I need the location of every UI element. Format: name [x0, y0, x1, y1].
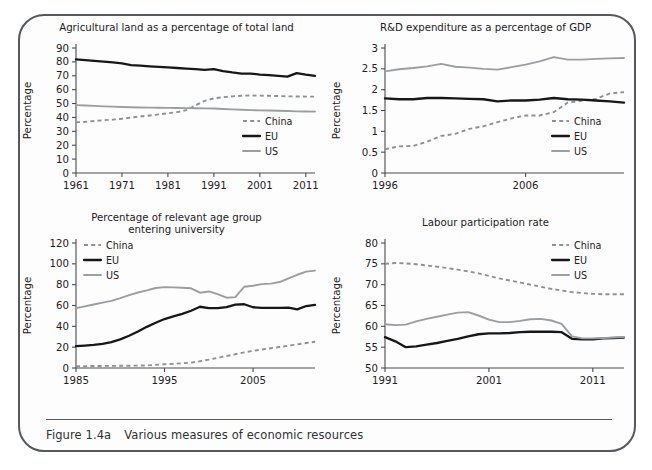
series-line-eu [385, 98, 624, 103]
y-tick-label: 50 [56, 98, 69, 109]
y-axis-label: Percentage [331, 277, 342, 334]
y-axis-label: Percentage [331, 82, 342, 139]
x-tick-label: 1996 [372, 180, 398, 191]
chart-title: Percentage of relevant age group [91, 212, 262, 223]
y-tick-label: 55 [365, 342, 378, 353]
y-tick-label: 100 [50, 258, 69, 269]
y-tick-label: 10 [56, 154, 69, 165]
y-tick-label: 75 [365, 258, 378, 269]
x-tick-label: 2001 [247, 180, 273, 191]
x-tick-label: 2011 [293, 180, 319, 191]
chart-university-entry: Percentage of relevant age groupentering… [18, 209, 327, 404]
y-tick-label: 40 [56, 112, 69, 123]
x-tick-label: 2001 [476, 375, 502, 386]
y-tick-label: 70 [365, 279, 378, 290]
chart-svg-labour-participation: Labour participation rate505560657075801… [327, 209, 636, 404]
y-tick-label: 65 [365, 300, 378, 311]
caption-divider [46, 419, 612, 420]
legend-label-eu: EU [106, 255, 119, 266]
chart-svg-university-entry: Percentage of relevant age groupentering… [18, 209, 327, 404]
x-tick-label: 1981 [155, 180, 181, 191]
legend-label-us: US [574, 146, 587, 157]
chart-title: R&D expenditure as a percentage of GDP [380, 22, 591, 33]
y-tick-label: 3 [372, 43, 378, 54]
y-tick-label: 80 [56, 279, 69, 290]
legend-label-china: China [574, 116, 601, 127]
y-tick-label: 50 [365, 363, 378, 374]
series-line-china [385, 263, 624, 294]
x-tick-label: 2011 [580, 375, 606, 386]
y-tick-label: 80 [365, 238, 378, 249]
series-line-us [385, 312, 624, 338]
y-tick-label: 70 [56, 70, 69, 81]
charts-grid: Agricultural land as a percentage of tot… [18, 14, 636, 404]
y-tick-label: 120 [50, 238, 69, 249]
x-tick-label: 1991 [372, 375, 398, 386]
y-tick-label: 0 [63, 363, 69, 374]
chart-agricultural-land: Agricultural land as a percentage of tot… [18, 14, 327, 209]
y-tick-label: 90 [56, 43, 69, 54]
x-tick-label: 1995 [152, 375, 178, 386]
legend-label-us: US [106, 270, 119, 281]
x-tick-label: 1971 [109, 180, 135, 191]
y-tick-label: 0.5 [362, 147, 378, 158]
x-tick-label: 1961 [63, 180, 89, 191]
y-tick-label: 60 [365, 321, 378, 332]
chart-title: Agricultural land as a percentage of tot… [59, 22, 294, 33]
figure-caption: Figure 1.4aVarious measures of economic … [46, 428, 612, 442]
y-tick-label: 80 [56, 56, 69, 67]
y-tick-label: 60 [56, 84, 69, 95]
chart-rnd-expenditure: R&D expenditure as a percentage of GDP00… [327, 14, 636, 209]
x-tick-label: 2006 [513, 180, 539, 191]
series-line-eu [76, 59, 315, 76]
series-line-eu [76, 304, 315, 346]
y-tick-label: 0 [63, 168, 69, 179]
series-line-us [76, 105, 315, 112]
y-tick-label: 40 [56, 321, 69, 332]
y-tick-label: 2.5 [362, 63, 378, 74]
legend-label-china: China [574, 240, 601, 251]
figure-caption-text: Various measures of economic resources [124, 428, 363, 442]
chart-axes [385, 239, 624, 368]
y-tick-label: 1.5 [362, 105, 378, 116]
chart-title-line2: entering university [128, 224, 225, 235]
y-tick-label: 2 [372, 84, 378, 95]
series-line-eu [385, 332, 624, 347]
y-tick-label: 1 [372, 126, 378, 137]
legend-label-us: US [574, 270, 587, 281]
x-tick-label: 2005 [240, 375, 266, 386]
legend-label-eu: EU [574, 131, 587, 142]
legend-label-eu: EU [265, 131, 278, 142]
y-axis-label: Percentage [22, 277, 33, 334]
legend-label-eu: EU [574, 255, 587, 266]
legend-label-china: China [106, 240, 133, 251]
chart-svg-rnd-expenditure: R&D expenditure as a percentage of GDP00… [327, 14, 636, 209]
x-tick-label: 1991 [201, 180, 227, 191]
chart-axes [385, 44, 624, 173]
x-tick-label: 1985 [63, 375, 89, 386]
y-tick-label: 0 [372, 168, 378, 179]
y-tick-label: 20 [56, 342, 69, 353]
y-tick-label: 30 [56, 126, 69, 137]
y-tick-label: 60 [56, 300, 69, 311]
figure-caption-number: Figure 1.4a [46, 428, 111, 442]
series-line-china [76, 342, 315, 366]
series-line-us [385, 57, 624, 71]
chart-svg-agricultural-land: Agricultural land as a percentage of tot… [18, 14, 327, 209]
y-axis-label: Percentage [22, 82, 33, 139]
legend-label-china: China [265, 116, 292, 127]
legend-label-us: US [265, 146, 278, 157]
chart-title: Labour participation rate [422, 217, 549, 228]
y-tick-label: 20 [56, 140, 69, 151]
chart-labour-participation: Labour participation rate505560657075801… [327, 209, 636, 404]
